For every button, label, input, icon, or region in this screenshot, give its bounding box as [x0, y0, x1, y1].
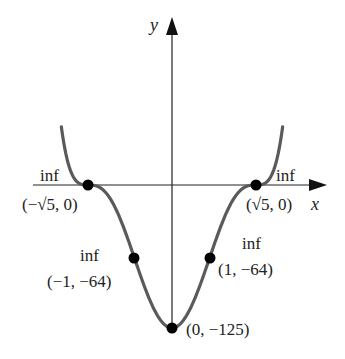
- label-neg-root: (−√5, 0): [22, 195, 78, 214]
- y-axis-arrow-icon: [166, 17, 178, 35]
- point-neg-root: [83, 180, 94, 191]
- label-pos-root: (√5, 0): [246, 195, 292, 214]
- label-minimum: (0, −125): [186, 320, 249, 339]
- inf-tag-neg-root: inf: [40, 166, 59, 185]
- inf-tag-pos-one: inf: [242, 234, 261, 253]
- point-neg-one: [129, 253, 140, 264]
- point-minimum: [167, 323, 178, 334]
- y-axis-label: y: [148, 15, 158, 35]
- inf-tag-neg-one: inf: [80, 246, 99, 265]
- point-pos-one: [205, 253, 216, 264]
- point-pos-root: [251, 180, 262, 191]
- label-neg-one: (−1, −64): [47, 272, 112, 291]
- inf-tag-pos-root: inf: [276, 166, 295, 185]
- label-pos-one: (1, −64): [218, 260, 273, 279]
- x-axis-label: x: [310, 194, 319, 214]
- x-axis-arrow-icon: [309, 179, 327, 191]
- function-graph: y x inf inf inf inf (−√5, 0) (√5, 0) (−1…: [0, 0, 345, 359]
